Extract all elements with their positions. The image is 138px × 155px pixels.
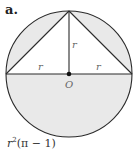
center-label: O	[65, 79, 73, 90]
vertical-radius-label: r	[72, 39, 78, 50]
area-caption: r2(π − 1)	[7, 136, 56, 150]
circle-diagram: r r r O	[0, 0, 138, 155]
center-point	[67, 72, 72, 77]
caption-expression: (π − 1)	[17, 137, 56, 150]
left-radius-label: r	[38, 61, 44, 72]
right-radius-label: r	[96, 61, 102, 72]
